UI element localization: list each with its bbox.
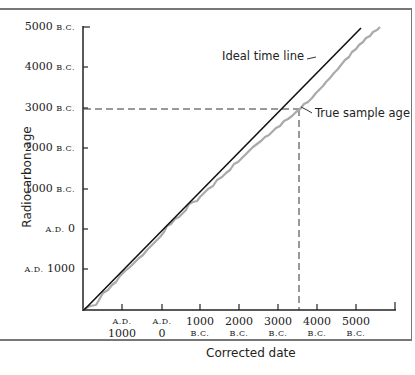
x-ticks (122, 302, 395, 310)
y-tick-label: 4000 B.C. (25, 60, 75, 73)
y-tick-label: A.D. 0 (46, 222, 76, 235)
y-tick-era: B.C. (56, 104, 75, 113)
x-tick-num: 5000 (331, 316, 381, 328)
ideal-time-line (84, 28, 361, 310)
y-tick-label: 3000 B.C. (25, 101, 75, 114)
y-tick-label: 5000 B.C. (25, 20, 75, 33)
y-tick-num: 0 (68, 222, 75, 235)
y-tick-era: B.C. (56, 63, 75, 72)
y-tick-num: 4000 (25, 60, 53, 73)
y-tick-label: A.D. 1000 (25, 262, 76, 275)
y-ticks (83, 27, 90, 269)
x-tick-label: 5000 B.C. (331, 316, 381, 340)
y-tick-num: 3000 (25, 101, 53, 114)
calibration-curve (84, 27, 380, 309)
y-tick-era: A.D. (46, 225, 65, 234)
x-axis-label: Corrected date (206, 346, 296, 360)
y-tick-era: B.C. (56, 23, 75, 32)
ideal-line-annotation: Ideal time line (222, 49, 304, 63)
y-tick-num: 1000 (47, 262, 75, 275)
y-tick-num: 5000 (25, 20, 53, 33)
true-sample-leader (301, 107, 312, 113)
ideal-line-leader (307, 57, 316, 59)
y-tick-era: A.D. (25, 265, 44, 274)
y-tick-era: B.C. (56, 144, 75, 153)
y-tick-era: B.C. (56, 185, 75, 194)
y-axis-label: Radiocarbon age (20, 126, 34, 227)
true-sample-annotation: True sample age (315, 106, 410, 120)
x-tick-era: B.C. (331, 328, 381, 340)
